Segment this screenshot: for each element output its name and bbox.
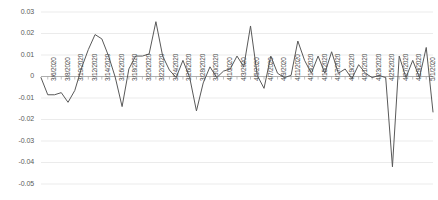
- x-axis-tick-label: 4/21/2020: [361, 53, 368, 80]
- x-axis-tick-label: 3/30/2020: [212, 53, 219, 80]
- x-axis-tick-label: 4/15/2020: [321, 53, 328, 80]
- y-axis-tick-label: -0.01: [0, 94, 34, 101]
- chart-canvas: [0, 0, 438, 200]
- x-axis-tick-label: 4/13/2020: [307, 53, 314, 80]
- data-series-line: [41, 22, 433, 167]
- x-axis-tick-label: 4/17/2020: [334, 53, 341, 80]
- x-axis-tick-label: 4/1/2020: [226, 57, 233, 81]
- plot-area: [0, 0, 438, 200]
- x-axis-tick-label: 3/28/2020: [199, 53, 206, 80]
- x-axis-tick-label: 4/27/2020: [402, 53, 409, 80]
- x-axis-tick-label: 3/16/2020: [118, 53, 125, 80]
- x-axis-tick-label: 4/29/2020: [415, 53, 422, 80]
- x-axis-tick-label: 4/25/2020: [388, 53, 395, 80]
- y-axis-tick-label: -0.04: [0, 158, 34, 165]
- line-chart: 0.030.020.010-0.01-0.02-0.03-0.04-0.05 3…: [0, 0, 438, 200]
- x-axis-tick-label: 5/1/2020: [429, 57, 436, 81]
- x-axis-tick-label: 3/26/2020: [185, 53, 192, 80]
- y-axis-tick-label: -0.03: [0, 137, 34, 144]
- x-axis-tick-label: 3/14/2020: [104, 53, 111, 80]
- y-axis-tick-label: 0.02: [0, 29, 34, 36]
- x-axis-tick-label: 3/10/2020: [77, 53, 84, 80]
- x-axis-tick-label: 4/3/2020: [240, 57, 247, 81]
- y-axis-tick-label: 0: [0, 72, 34, 79]
- x-axis-tick-label: 4/11/2020: [294, 54, 301, 81]
- x-axis-tick-label: 3/8/2020: [64, 57, 71, 81]
- x-axis-tick-label: 3/6/2020: [50, 57, 57, 81]
- y-axis-tick-label: -0.02: [0, 115, 34, 122]
- x-axis-tick-label: 3/24/2020: [172, 53, 179, 80]
- x-axis-tick-label: 4/9/2020: [280, 57, 287, 81]
- x-axis-tick-label: 3/18/2020: [131, 53, 138, 80]
- x-axis-tick-label: 3/22/2020: [158, 53, 165, 80]
- x-axis-tick-label: 4/23/2020: [375, 53, 382, 80]
- y-axis-tick-label: -0.05: [0, 180, 34, 187]
- x-axis-tick-label: 4/19/2020: [348, 53, 355, 80]
- y-axis-tick-label: 0.01: [0, 51, 34, 58]
- x-axis-tick-label: 4/5/2020: [253, 57, 260, 81]
- x-axis-tick-label: 3/12/2020: [91, 53, 98, 80]
- x-axis-tick-label: 4/7/2020: [267, 57, 274, 81]
- y-axis-tick-label: 0.03: [0, 8, 34, 15]
- x-axis-tick-label: 3/20/2020: [145, 53, 152, 80]
